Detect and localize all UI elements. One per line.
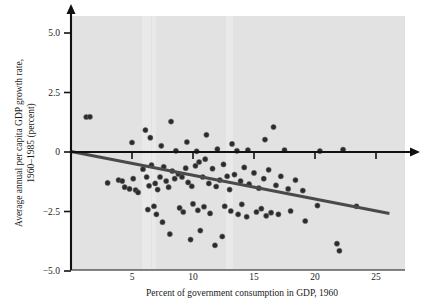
data-point xyxy=(164,178,169,183)
data-point xyxy=(278,174,283,179)
data-point xyxy=(264,213,269,218)
data-point xyxy=(228,208,233,213)
y-tick-label: −5.0 xyxy=(43,266,60,276)
data-point xyxy=(122,185,127,190)
data-point xyxy=(262,137,267,142)
y-tick-label: 5.0 xyxy=(48,28,60,38)
data-point xyxy=(204,132,209,137)
x-tick-label: 25 xyxy=(371,272,381,282)
data-point xyxy=(288,208,293,213)
data-point xyxy=(179,174,184,179)
data-point xyxy=(197,159,202,164)
data-point xyxy=(129,140,134,145)
data-point xyxy=(334,241,339,246)
data-point xyxy=(145,207,150,212)
data-point xyxy=(207,211,212,216)
data-point xyxy=(337,248,342,253)
data-point xyxy=(227,187,232,192)
data-point xyxy=(239,202,244,207)
data-point xyxy=(293,177,298,182)
data-point xyxy=(160,220,165,225)
data-point xyxy=(143,128,148,133)
plot-background-band-1 xyxy=(152,16,156,270)
data-point xyxy=(229,141,234,146)
y-axis-title-line1: Average annual per capita GDP growth rat… xyxy=(14,59,24,227)
data-point xyxy=(181,209,186,214)
data-point xyxy=(212,243,217,248)
y-tick-label: 2.5 xyxy=(48,88,60,98)
data-point xyxy=(203,157,208,162)
y-tick-label: −2.5 xyxy=(43,207,60,217)
x-axis-title: Percent of government consumption in GDP… xyxy=(146,288,338,298)
data-point xyxy=(157,174,162,179)
data-point xyxy=(144,174,149,179)
chart-canvas: 5101520255.02.50−2.5−5.0 Percent of gove… xyxy=(0,0,422,306)
data-point xyxy=(232,172,237,177)
data-point xyxy=(155,187,160,192)
data-point xyxy=(184,139,189,144)
y-axis-title-line2: 1960–1985 (percent) xyxy=(26,103,37,182)
y-tick-label: 0 xyxy=(55,147,60,157)
data-point xyxy=(206,181,211,186)
data-point xyxy=(201,204,206,209)
data-point xyxy=(261,176,266,181)
plot-background-band-0 xyxy=(142,16,151,270)
data-point xyxy=(105,180,110,185)
data-point xyxy=(168,119,173,124)
data-point xyxy=(190,201,195,206)
data-point xyxy=(177,205,182,210)
data-point xyxy=(268,210,273,215)
data-point xyxy=(189,184,194,189)
data-point xyxy=(266,167,271,172)
data-point xyxy=(271,124,276,129)
data-point xyxy=(183,166,188,171)
x-tick-label: 10 xyxy=(188,272,198,282)
data-point xyxy=(166,185,171,190)
data-point xyxy=(244,214,249,219)
data-point xyxy=(151,204,156,209)
data-point xyxy=(153,181,158,186)
data-point xyxy=(254,209,259,214)
data-point xyxy=(242,165,247,170)
data-point xyxy=(146,183,151,188)
scatter-chart-figure: 5101520255.02.50−2.5−5.0 Percent of gove… xyxy=(0,0,422,306)
data-point xyxy=(154,212,159,217)
data-point xyxy=(225,174,230,179)
data-point xyxy=(300,188,305,193)
x-tick-label: 5 xyxy=(130,272,135,282)
data-point xyxy=(273,183,278,188)
data-point xyxy=(236,212,241,217)
x-tick-label: 20 xyxy=(310,272,320,282)
plot-background-rect xyxy=(71,16,405,270)
data-point xyxy=(159,143,164,148)
x-tick-label: 15 xyxy=(249,272,259,282)
data-point xyxy=(195,208,200,213)
data-point xyxy=(172,176,177,181)
data-point xyxy=(286,186,291,191)
data-point xyxy=(315,203,320,208)
data-point xyxy=(303,218,308,223)
data-point xyxy=(188,237,193,242)
data-point xyxy=(214,184,219,189)
data-point xyxy=(167,232,172,237)
data-point xyxy=(210,166,215,171)
data-point xyxy=(87,114,92,119)
data-point xyxy=(136,190,141,195)
data-point xyxy=(198,228,203,233)
data-point xyxy=(276,212,281,217)
data-point xyxy=(131,176,136,181)
data-point xyxy=(222,204,227,209)
data-point xyxy=(148,135,153,140)
data-point xyxy=(220,234,225,239)
data-point xyxy=(127,186,132,191)
data-point xyxy=(251,170,256,175)
plot-area-background xyxy=(71,16,405,270)
data-point xyxy=(120,178,125,183)
data-point xyxy=(221,162,226,167)
data-point xyxy=(259,206,264,211)
